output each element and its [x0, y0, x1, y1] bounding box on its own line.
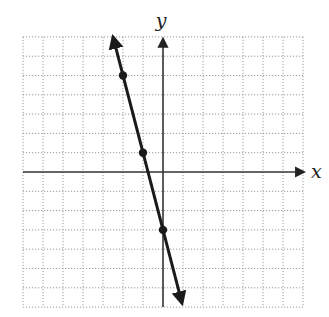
- data-point: [119, 71, 127, 79]
- y-axis-label: y: [155, 9, 167, 31]
- coordinate-plane: x y: [0, 0, 329, 317]
- data-point: [159, 226, 167, 234]
- x-axis-label: x: [311, 160, 322, 182]
- data-point: [139, 149, 147, 157]
